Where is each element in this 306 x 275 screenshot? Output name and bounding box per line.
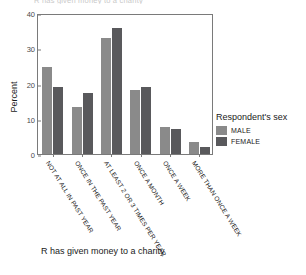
bar-group (189, 15, 210, 154)
x-tick-mark (82, 154, 83, 157)
x-tick-mark (141, 154, 142, 157)
legend: Respondent's sex MALEFEMALE (216, 112, 304, 148)
bar-group (101, 15, 122, 154)
y-tick-mark (38, 156, 41, 157)
bar-male (72, 107, 82, 154)
y-tick-label: 10 (27, 117, 38, 125)
x-tick-mark (170, 154, 171, 157)
legend-swatch-icon (216, 137, 227, 146)
bar-group (42, 15, 63, 154)
bar-male (160, 127, 170, 154)
bar-female (53, 87, 63, 154)
chart-caption: R has given money to a charity (41, 246, 165, 256)
legend-entries: MALEFEMALE (216, 126, 304, 146)
y-tick-label: 30 (27, 47, 38, 55)
legend-title: Respondent's sex (216, 112, 304, 122)
legend-swatch-icon (216, 126, 227, 135)
y-tick-label: 40 (27, 11, 38, 19)
x-category-label: ONCE A MONTH (132, 160, 164, 206)
y-tick-label: 20 (27, 82, 38, 90)
x-category-label: AT LEAST 2 OR 3 TIMES PER YEAR (103, 160, 167, 258)
legend-label: MALE (231, 127, 251, 134)
bar-female (200, 147, 210, 154)
legend-item: FEMALE (216, 137, 304, 146)
bar-group (72, 15, 93, 154)
bar-female (141, 87, 151, 154)
x-tick-mark (111, 154, 112, 157)
bar-female (171, 129, 181, 154)
y-tick-label: 0 (31, 152, 38, 160)
bar-group (130, 15, 151, 154)
x-category-label: ONCE A WEEK (162, 160, 192, 202)
legend-item: MALE (216, 126, 304, 135)
bar-group (160, 15, 181, 154)
x-category-label: MORE THAN ONCE A WEEK (191, 160, 243, 238)
bars-layer (38, 15, 212, 154)
bar-female (112, 28, 122, 154)
y-axis-label: Percent (9, 67, 19, 127)
bar-male (189, 142, 199, 154)
legend-label: FEMALE (231, 138, 260, 145)
x-tick-mark (199, 154, 200, 157)
bar-male (101, 38, 111, 154)
plot-area: 010203040 (37, 14, 213, 155)
bar-male (130, 90, 140, 154)
bar-male (42, 67, 52, 154)
bar-female (83, 93, 93, 154)
x-tick-mark (53, 154, 54, 157)
clipped-top-title: R has given money to a charity (34, 0, 234, 4)
